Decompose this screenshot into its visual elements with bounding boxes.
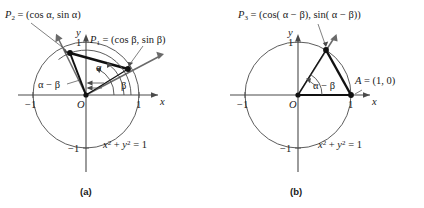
tick-label-y-pos1-b: 1 (288, 37, 293, 48)
figure-canvas: P2 = (cos α, sin α) P1 = (cos β, sin β) … (0, 0, 424, 208)
leader-p3-arrow-b (323, 42, 328, 47)
radius-to-p2-a (70, 53, 86, 95)
panel-a: P2 = (cos α, sin α) P1 = (cos β, sin β) … (4, 9, 166, 197)
tick-label-x-neg1-b: −1 (237, 99, 248, 110)
label-p3-b: P3 = (cos( α − β), sin( α − β)) (237, 9, 361, 22)
y-axis-arrow-a (83, 34, 88, 41)
angle-label-alpha-minus-beta-a: α − β (38, 79, 60, 90)
x-axis-label-a: x (159, 96, 165, 107)
angle-label-alpha-a: α (96, 62, 102, 73)
circle-equation-a: x2 + y2 = 1 (102, 139, 147, 151)
leader-a-b (355, 90, 362, 94)
leader-p2-a (31, 23, 66, 50)
x-axis-arrow-b (363, 92, 370, 97)
point-p1-a (125, 66, 131, 72)
point-p2-a (67, 50, 73, 56)
tick-label-x-pos1-a: 1 (136, 99, 141, 110)
angle-label-alpha-minus-beta-b: α − β (313, 80, 335, 91)
indicator-arrow-1-a (87, 81, 93, 86)
y-axis-label-b: y (287, 27, 293, 38)
tick-label-x-neg1-a: −1 (25, 99, 36, 110)
label-p1-a: P1 = (cos β, sin β) (89, 34, 166, 47)
leader-p1-a (130, 46, 143, 64)
tick-label-y-neg1-b: −1 (280, 143, 291, 154)
tick-label-y-neg1-a: −1 (68, 143, 79, 154)
trigonometry-figure: P2 = (cos α, sin α) P1 = (cos β, sin β) … (0, 0, 424, 208)
ray-arrow-b (330, 34, 337, 42)
tick-label-y-pos1-a: 1 (76, 37, 81, 48)
y-axis-label-a: y (75, 27, 81, 38)
origin-point-a (83, 92, 88, 97)
circle-equation-b: x2 + y2 = 1 (317, 139, 362, 151)
y-axis-arrow-b (295, 34, 300, 41)
angle-label-beta-a: β (121, 80, 126, 91)
origin-label-b: O (289, 99, 297, 110)
indicator-arrow-2-a (87, 86, 93, 91)
caption-b: (b) (290, 186, 302, 197)
label-a-point-b: A = (1, 0) (354, 75, 396, 87)
x-axis-label-b: x (371, 96, 377, 107)
caption-a: (a) (80, 186, 92, 197)
point-p3-b (323, 47, 329, 53)
leader-alpha-minus-beta-a (67, 80, 80, 84)
panel-b: P3 = (cos( α − β), sin( α − β)) A = (1, … (230, 9, 396, 197)
leader-p3-b (318, 24, 325, 44)
label-p2-a: P2 = (cos α, sin α) (4, 9, 81, 22)
tick-label-x-pos1-b: 1 (348, 99, 353, 110)
point-a-b (348, 92, 354, 98)
origin-label-a: O (77, 99, 85, 110)
origin-point-b (295, 92, 300, 97)
x-axis-arrow-a (151, 92, 158, 97)
